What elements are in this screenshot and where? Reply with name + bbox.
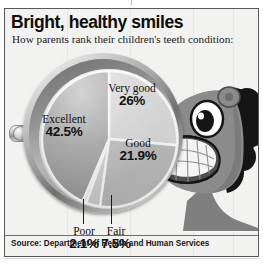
label-very-good-value: 26% bbox=[97, 94, 167, 108]
label-excellent: Excellent 42.5% bbox=[31, 113, 97, 139]
top-crop-tick bbox=[131, 0, 132, 5]
page-subtitle: How parents rank their children's teeth … bbox=[12, 33, 233, 45]
label-excellent-value: 42.5% bbox=[31, 125, 97, 139]
label-good: Good 21.9% bbox=[109, 137, 167, 163]
label-very-good: Very good 26% bbox=[97, 82, 167, 108]
bottom-rule bbox=[4, 258, 259, 259]
infographic-page: Bright, healthy smiles How parents rank … bbox=[0, 0, 263, 266]
source-text: Source: Department of Health and Human S… bbox=[11, 239, 209, 248]
leader-line-poor bbox=[83, 199, 84, 224]
leader-line-fair bbox=[111, 195, 112, 224]
source-divider bbox=[5, 235, 258, 236]
label-good-value: 21.9% bbox=[109, 149, 167, 163]
graphic-frame: Bright, healthy smiles How parents rank … bbox=[4, 8, 259, 257]
page-title: Bright, healthy smiles bbox=[11, 12, 183, 33]
